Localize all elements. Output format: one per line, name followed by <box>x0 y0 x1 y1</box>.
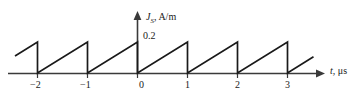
plot-canvas <box>0 0 359 99</box>
y-axis-label-unit: , A/m <box>154 11 176 22</box>
x-axis-label: t, μs <box>330 66 347 76</box>
x-tick-label-0: 0 <box>139 80 144 90</box>
x-tick-label--2: −2 <box>30 80 41 90</box>
x-axis-label-unit: , μs <box>333 65 347 76</box>
x-tick-label-3: 3 <box>285 80 290 90</box>
x-tick-label-2: 2 <box>235 80 240 90</box>
sawtooth-waveform <box>15 42 314 73</box>
y-axis-peak-value-label: 0.2 <box>143 31 156 41</box>
arrow-up-icon <box>134 11 142 20</box>
arrow-right-icon <box>316 70 325 78</box>
sawtooth-waveform-figure: JS, A/m 0.2 t, μs −2 −1 0 1 2 3 <box>0 0 359 99</box>
x-tick-label--1: −1 <box>80 80 91 90</box>
x-tick-label-1: 1 <box>185 80 190 90</box>
y-axis-label: JS, A/m <box>146 12 176 25</box>
